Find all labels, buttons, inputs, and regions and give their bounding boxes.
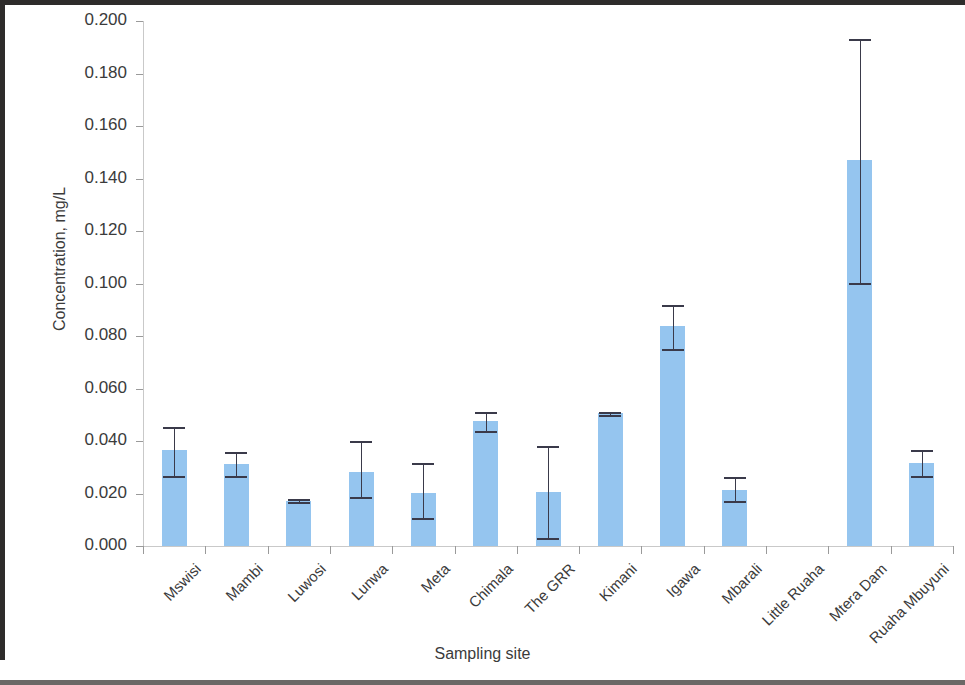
x-tick-label: The GRR (521, 560, 578, 617)
x-tick (455, 546, 456, 554)
error-bar-cap-lower (412, 518, 434, 520)
x-axis-title: Sampling site (0, 645, 965, 663)
error-bar-cap-upper (475, 412, 497, 414)
y-tick: 0.040 (136, 441, 143, 442)
error-bar-cap-lower (599, 415, 621, 417)
x-tick-label: Mambi (223, 560, 267, 604)
error-bar-whisker (548, 446, 549, 538)
x-tick (392, 546, 393, 554)
error-bar-cap-upper (225, 452, 247, 454)
error-bar-cap-upper (350, 441, 372, 443)
x-tick (143, 546, 144, 554)
x-tick-label: Little Ruaha (759, 560, 828, 629)
error-bar-whisker (860, 39, 861, 283)
x-tick-label: Meta (418, 560, 454, 596)
y-tick: 0.180 (136, 74, 143, 75)
error-bar-cap-lower (911, 476, 933, 478)
y-tick-label: 0.100 (84, 273, 127, 293)
y-tick: 0.120 (136, 231, 143, 232)
y-tick-label: 0.140 (84, 168, 127, 188)
error-bar-cap-lower (225, 476, 247, 478)
error-bar-cap-upper (163, 427, 185, 429)
error-bar-whisker (673, 305, 674, 349)
x-tick-label: Luwosi (284, 560, 329, 605)
error-bar-cap-lower (724, 501, 746, 503)
x-tick-label: Lunwa (348, 560, 391, 603)
error-bar-cap-lower (288, 502, 310, 504)
x-tick-label: Igawa (662, 560, 702, 600)
x-tick (828, 546, 829, 554)
y-tick: 0.100 (136, 284, 143, 285)
error-bar-cap-upper (599, 412, 621, 414)
error-bar-cap-upper (537, 446, 559, 448)
x-tick-label: Mswisi (160, 560, 204, 604)
x-tick (330, 546, 331, 554)
x-tick (953, 546, 954, 554)
y-axis-line (143, 21, 144, 547)
error-bar-whisker (236, 452, 237, 477)
error-bar-cap-lower (163, 476, 185, 478)
error-bar-whisker (423, 463, 424, 518)
error-bar-whisker (361, 441, 362, 497)
x-axis-line (143, 546, 953, 547)
error-bar-cap-upper (724, 477, 746, 479)
y-tick-label: 0.080 (84, 325, 127, 345)
bar (286, 501, 311, 546)
page-border-bottom (0, 680, 965, 685)
x-tick-label: Mtera Dam (825, 560, 889, 624)
bar (473, 421, 498, 546)
y-tick: 0.160 (136, 126, 143, 127)
y-tick: 0.000 (136, 546, 143, 547)
y-tick-label: 0.120 (84, 220, 127, 240)
error-bar-cap-upper (911, 450, 933, 452)
x-tick (891, 546, 892, 554)
x-tick (579, 546, 580, 554)
x-tick (704, 546, 705, 554)
y-tick-label: 0.180 (84, 63, 127, 83)
error-bar-cap-upper (288, 499, 310, 501)
y-tick-label: 0.200 (84, 10, 127, 30)
x-tick-label: Mbarali (718, 560, 765, 607)
x-tick (268, 546, 269, 554)
error-bar-cap-lower (350, 497, 372, 499)
y-tick-label: 0.000 (84, 535, 127, 555)
error-bar-cap-lower (537, 538, 559, 540)
y-tick-label: 0.060 (84, 378, 127, 398)
error-bar-cap-lower (475, 431, 497, 433)
error-bar-cap-lower (849, 283, 871, 285)
x-tick-label: Kimani (596, 560, 640, 604)
error-bar-cap-upper (412, 463, 434, 465)
page-border-top (0, 0, 965, 5)
y-tick: 0.080 (136, 336, 143, 337)
bar (660, 326, 685, 546)
chart-page: Concentration, mg/L 0.2000.1800.1600.140… (0, 0, 965, 685)
plot-area: 0.2000.1800.1600.1400.1200.1000.0800.060… (143, 21, 953, 546)
error-bar-cap-upper (849, 39, 871, 41)
error-bar-whisker (922, 450, 923, 475)
error-bar-cap-upper (662, 305, 684, 307)
page-border-left (0, 0, 5, 660)
x-tick (641, 546, 642, 554)
bar (598, 413, 623, 546)
y-tick: 0.140 (136, 179, 143, 180)
y-tick: 0.020 (136, 494, 143, 495)
x-tick (205, 546, 206, 554)
error-bar-whisker (174, 427, 175, 476)
y-tick-label: 0.040 (84, 430, 127, 450)
x-tick (517, 546, 518, 554)
x-tick-label: Chimala (465, 560, 516, 611)
error-bar-whisker (735, 477, 736, 501)
error-bar-whisker (486, 412, 487, 430)
y-tick-label: 0.160 (84, 115, 127, 135)
error-bar-cap-lower (662, 349, 684, 351)
y-tick: 0.060 (136, 389, 143, 390)
y-axis-title: Concentration, mg/L (51, 119, 69, 399)
x-tick (766, 546, 767, 554)
y-tick: 0.200 (136, 21, 143, 22)
y-tick-label: 0.020 (84, 483, 127, 503)
